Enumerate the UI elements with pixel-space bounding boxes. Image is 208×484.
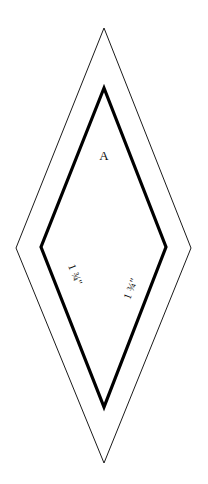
canvas-background	[0, 0, 208, 484]
diamond-template-drawing: A 1 ¾" 1 ¾"	[0, 0, 208, 484]
pattern-canvas: A 1 ¾" 1 ¾"	[0, 0, 208, 484]
piece-letter-label: A	[99, 148, 109, 163]
